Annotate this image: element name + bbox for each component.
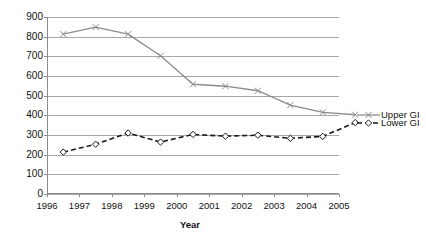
data-point-marker [157,139,163,145]
x-tick [274,194,275,197]
series-upper-gi [60,24,358,118]
plot-area [47,17,339,194]
x-tick [242,194,243,197]
y-tick-label: 100 [9,169,43,179]
series-layer [47,17,339,194]
x-tick-label: 1997 [69,201,90,211]
x-tick-label: 2000 [166,201,187,211]
x-tick-label: 1999 [134,201,155,211]
x-tick-label: 2003 [264,201,285,211]
data-point-marker [320,133,326,139]
x-tick-label: 2001 [199,201,220,211]
y-tick-label: 200 [9,150,43,160]
legend-label: Lower GI [381,118,420,128]
x-tick [144,194,145,197]
line-chart: 0100200300400500600700800900 19961997199… [0,0,426,239]
x-tick [307,194,308,197]
chart-legend: Upper GILower GI [357,17,426,194]
y-tick-label: 300 [9,130,43,140]
x-tick-label: 2005 [328,201,349,211]
data-point-marker [158,53,164,59]
x-tick [209,194,210,197]
y-tick-label: 500 [9,91,43,101]
y-tick-label: 400 [9,110,43,120]
x-tick-label: 2004 [296,201,317,211]
y-tick-label: 900 [9,12,43,22]
x-tick [177,194,178,197]
data-point-marker [190,131,196,137]
x-tick [112,194,113,197]
data-point-marker [60,149,66,155]
data-point-marker [365,119,371,125]
data-point-marker [222,133,228,139]
y-tick-label: 600 [9,71,43,81]
legend-marker-diamond-icon [357,118,380,128]
y-tick-label: 800 [9,32,43,42]
x-tick-label: 1998 [101,201,122,211]
x-tick [339,194,340,197]
x-tick-label: 2002 [231,201,252,211]
y-tick-label: 700 [9,51,43,61]
legend-item-lower-gi[interactable]: Lower GI [357,118,420,128]
x-axis-title: Year [0,219,380,230]
y-tick-label: 0 [9,189,43,199]
data-point-marker [125,130,131,136]
gridline [47,194,339,195]
x-tick [79,194,80,197]
data-point-marker [255,132,261,138]
series-line [63,123,355,153]
series-line [63,27,355,115]
x-tick [47,194,48,197]
x-tick-label: 1996 [36,201,57,211]
data-point-marker [287,135,293,141]
series-lower-gi [60,119,358,155]
data-point-marker [92,141,98,147]
